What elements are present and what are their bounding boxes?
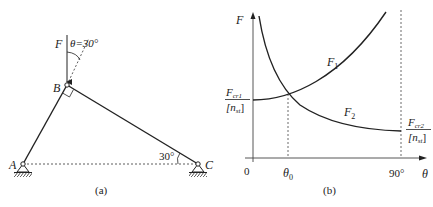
- support-a: [14, 162, 32, 177]
- angle-c-arc: [177, 153, 180, 164]
- svg-text:[nst]: [nst]: [226, 101, 244, 115]
- svg-text:Fcr2: Fcr2: [407, 116, 425, 130]
- caption-b: (b): [323, 184, 336, 197]
- x-axis-label: θ: [422, 167, 428, 181]
- truss-diagram: F θ=30° B A C 30° (a): [8, 35, 214, 197]
- angle-c-label: 30°: [159, 150, 174, 162]
- caption-a: (a): [95, 184, 108, 197]
- curve-f2: [259, 16, 401, 131]
- figure: F θ=30° B A C 30° (a) F1 F2 F θ 0 θ0 90°…: [0, 0, 433, 207]
- point-a-label: A: [8, 158, 17, 172]
- theta-label: θ=30°: [70, 37, 99, 49]
- point-b-label: B: [53, 81, 61, 95]
- svg-text:[nst]: [nst]: [408, 131, 426, 145]
- y-axis-arrow: [251, 12, 256, 19]
- stability-graph: F1 F2 F θ 0 θ0 90° Fcr1 [nst] Fcr2 [nst]…: [225, 10, 431, 197]
- right-fraction: Fcr2 [nst]: [406, 116, 431, 145]
- curve-f1: [253, 12, 386, 100]
- curve-f1-label: F1: [326, 55, 338, 71]
- ninety-label: 90°: [389, 167, 404, 179]
- force-label: F: [54, 37, 63, 51]
- svg-text:Fcr1: Fcr1: [225, 86, 242, 100]
- pin-b: [65, 83, 69, 87]
- theta-arc: [67, 52, 80, 60]
- theta0-label: θ0: [283, 166, 293, 182]
- bar-bc: [67, 85, 198, 164]
- curve-f2-label: F2: [343, 105, 355, 121]
- point-c-label: C: [205, 158, 214, 172]
- left-fraction: Fcr1 [nst]: [225, 86, 250, 115]
- bar-ab: [23, 85, 67, 164]
- x-axis-arrow: [419, 156, 427, 161]
- origin-label: 0: [244, 165, 250, 177]
- y-axis-label: F: [235, 13, 244, 27]
